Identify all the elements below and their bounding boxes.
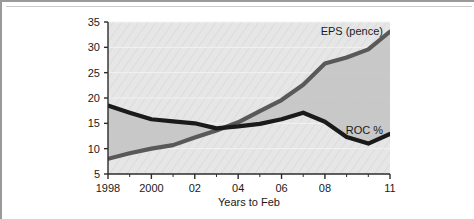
- x-tick-label: 2000: [139, 182, 163, 194]
- x-tick-label: 04: [232, 182, 244, 194]
- line-chart: 5101520253035 199820000204060811 Years t…: [0, 0, 474, 219]
- x-tick-label: 08: [319, 182, 331, 194]
- y-tick-label: 30: [88, 41, 100, 53]
- y-tick-label: 5: [94, 168, 100, 180]
- series-label-roc: ROC %: [346, 124, 384, 136]
- chart-container: 5101520253035 199820000204060811 Years t…: [0, 0, 474, 219]
- y-tick-label: 20: [88, 92, 100, 104]
- x-tick-label: 02: [189, 182, 201, 194]
- y-tick-label: 10: [88, 143, 100, 155]
- x-tick-label: 11: [384, 182, 395, 194]
- x-axis-ticks: 199820000204060811: [96, 174, 396, 194]
- y-tick-label: 35: [88, 16, 100, 28]
- x-axis-title: Years to Feb: [218, 196, 280, 208]
- x-tick-label: 06: [275, 182, 287, 194]
- series-label-eps: EPS (pence): [321, 25, 383, 37]
- y-tick-label: 15: [88, 117, 100, 129]
- y-axis-ticks: 5101520253035: [88, 16, 108, 180]
- y-tick-label: 25: [88, 67, 100, 79]
- x-tick-label: 1998: [96, 182, 120, 194]
